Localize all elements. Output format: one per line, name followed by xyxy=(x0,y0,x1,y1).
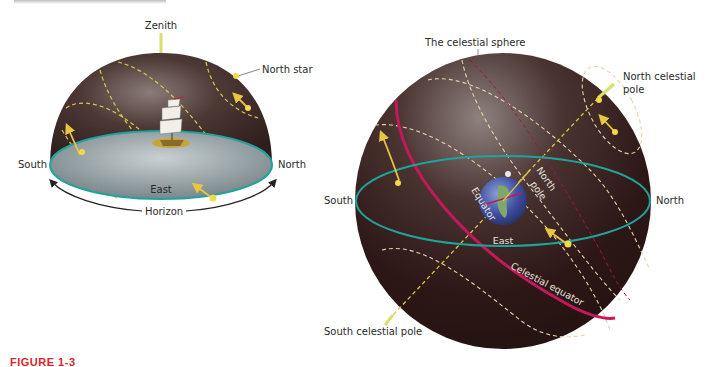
north-star-label: North star xyxy=(262,64,313,75)
south-label-right: South xyxy=(324,195,353,206)
east-label-left: East xyxy=(150,184,172,195)
zenith-label: Zenith xyxy=(145,20,177,31)
celestial-sphere-panel: The celestial sphere xyxy=(324,37,696,349)
south-celestial-pole-label: South celestial pole xyxy=(324,326,422,337)
celestial-diagram: Zenith North star xyxy=(0,0,707,367)
east-label-right: East xyxy=(493,235,514,246)
north-label-right: North xyxy=(656,195,684,206)
north-celestial-pole-label-line2: pole xyxy=(623,84,644,95)
horizon-dome-panel: Zenith North star xyxy=(18,20,313,217)
north-celestial-pole-label-line1: North celestial xyxy=(623,71,696,82)
horizon-label: Horizon xyxy=(145,206,183,217)
figure-label: FIGURE 1-3 xyxy=(10,356,76,367)
south-label-left: South xyxy=(18,159,47,170)
celestial-sphere-label: The celestial sphere xyxy=(424,37,525,48)
south-celestial-pole-pointer xyxy=(385,315,393,325)
north-label-left: North xyxy=(278,159,306,170)
north-star-icon xyxy=(233,73,239,79)
